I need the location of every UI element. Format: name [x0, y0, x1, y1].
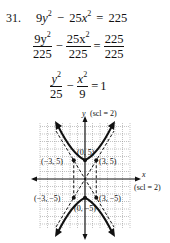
x-scale-label: (scl = 2) — [134, 183, 161, 192]
y-scale-label: (scl = 2) — [90, 109, 117, 118]
point-label: (3, −5) — [99, 194, 121, 203]
y-axis-label: y — [81, 109, 86, 118]
point-label: (−3, 5) — [41, 157, 63, 166]
y-axis-arrow-down-icon — [83, 234, 88, 240]
point-label: (0, 5) — [77, 148, 95, 157]
hyperbola-graph: y (scl = 2) x (scl = 2) (0, 5) (−3, 5) (… — [0, 0, 170, 243]
x-axis-arrow-icon — [135, 177, 141, 182]
point-label: (0, −5) — [74, 204, 96, 213]
x-axis-label: x — [141, 170, 146, 179]
point-label: (−3, −5) — [34, 194, 61, 203]
x-axis-arrow-left-icon — [31, 177, 37, 182]
point-label: (3, 5) — [99, 157, 117, 166]
